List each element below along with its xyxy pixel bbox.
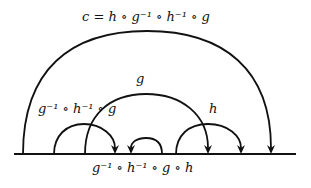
arc-diagram: c = h ∘ g⁻¹ ∘ h⁻¹ ∘ g g g⁻¹ ∘ h⁻¹ ∘ g h … — [0, 0, 311, 188]
label-conjugate: g⁻¹ ∘ h⁻¹ ∘ g — [38, 102, 116, 115]
label-bottom: g⁻¹ ∘ h⁻¹ ∘ g ∘ h — [92, 161, 193, 174]
label-c: c = h ∘ g⁻¹ ∘ h⁻¹ ∘ g — [82, 10, 210, 23]
arc-small — [131, 138, 162, 154]
label-h: h — [209, 102, 217, 115]
label-g: g — [136, 72, 144, 85]
